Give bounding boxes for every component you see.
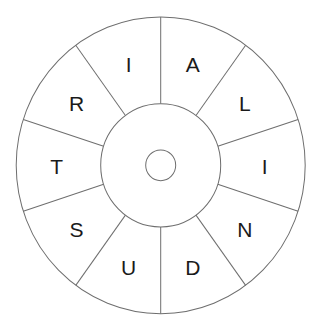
- sector-letter: L: [239, 92, 251, 115]
- sector-letter: U: [121, 256, 136, 279]
- sector-divider: [23, 184, 103, 211]
- inner-ring: [101, 104, 221, 227]
- sector-letter: I: [126, 53, 132, 76]
- sector-letter: I: [262, 155, 268, 178]
- sector-divider: [218, 119, 298, 146]
- sector-letter: N: [237, 218, 252, 241]
- sector-divider: [23, 119, 103, 146]
- sector-letter: R: [69, 92, 84, 115]
- word-wheel: ALINDUSTRI: [0, 0, 318, 330]
- sector-letter: T: [50, 155, 63, 178]
- sector-divider: [218, 184, 298, 211]
- sector-letter: A: [186, 53, 200, 76]
- sector-letter: S: [70, 218, 84, 241]
- sector-letter: D: [185, 256, 200, 279]
